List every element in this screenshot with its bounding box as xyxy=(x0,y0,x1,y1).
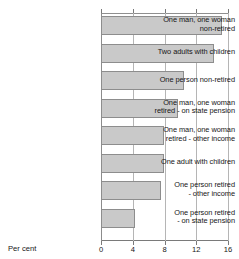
category-label-line: retired - on state pension xyxy=(143,107,235,116)
category-label: One person retired- on state pension xyxy=(143,209,239,227)
tick-top-0 xyxy=(101,9,102,13)
bar-chart: One man, one womannon-retiredTwo adults … xyxy=(0,0,239,259)
category-label-line: retired - other income xyxy=(143,135,235,144)
category-label: Two adults with children xyxy=(143,48,239,57)
x-tick-label-16: 16 xyxy=(224,245,232,254)
category-label-line: - other income xyxy=(143,190,235,199)
category-label: One person retired- other income xyxy=(143,181,239,199)
bar xyxy=(101,209,135,228)
x-axis-title: Per cent xyxy=(8,244,36,253)
category-label: One man, one womannon-retired xyxy=(143,16,239,34)
category-label-line: non-retired xyxy=(143,25,235,34)
tick-top-16 xyxy=(228,9,229,13)
x-tick-label-4: 4 xyxy=(131,245,135,254)
category-label-line: One adult with children xyxy=(143,158,235,167)
x-tick-label-8: 8 xyxy=(162,245,166,254)
category-label: One man, one womanretired - on state pen… xyxy=(143,99,239,117)
category-label: One person non-retired xyxy=(143,76,239,85)
x-tick-label-12: 12 xyxy=(192,245,200,254)
category-label-line: One person non-retired xyxy=(143,76,235,85)
category-label: One adult with children xyxy=(143,158,239,167)
category-label: One man, one womanretired - other income xyxy=(143,126,239,144)
tick-top-8 xyxy=(165,9,166,13)
category-label-line: - on state pension xyxy=(143,217,235,226)
tick-top-4 xyxy=(133,9,134,13)
x-tick-label-0: 0 xyxy=(99,245,103,254)
tick-top-12 xyxy=(196,9,197,13)
category-label-line: Two adults with children xyxy=(143,48,235,57)
